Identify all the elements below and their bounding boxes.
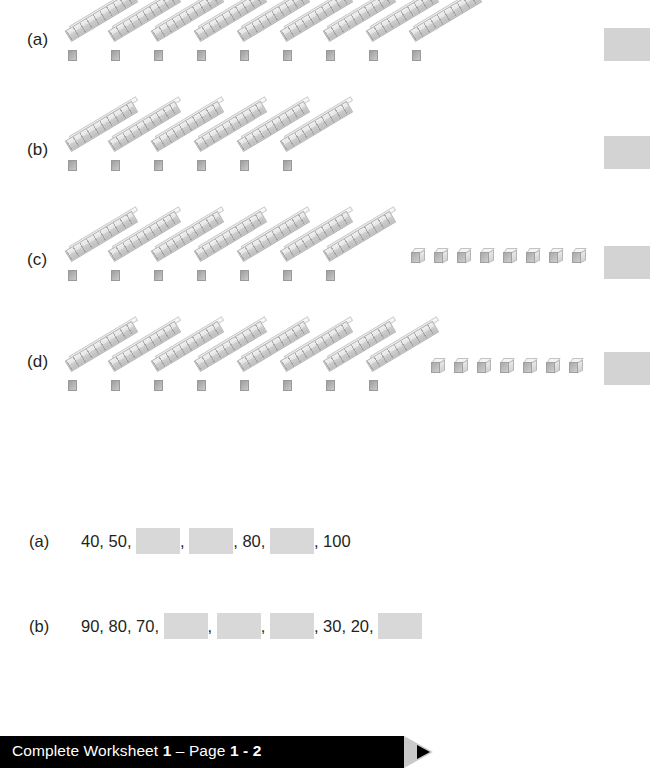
block-row: (a) (0, 0, 663, 100)
answer-box[interactable] (604, 28, 650, 61)
sequence-number: 70 (136, 617, 154, 636)
sequence-blank-box[interactable] (270, 613, 314, 639)
tens-rod-end-cap (197, 50, 206, 61)
unit-cube-front-face (477, 362, 486, 373)
unit-cube-front-face (572, 252, 581, 263)
unit-cube-front-face (569, 362, 578, 373)
unit-cube (454, 358, 469, 375)
sequence-blank-box[interactable] (217, 613, 261, 639)
tens-rod (283, 126, 355, 182)
unit-cube (457, 248, 472, 265)
unit-cube (477, 358, 492, 375)
tens-rod (326, 236, 398, 292)
unit-cube-front-face (457, 252, 466, 263)
sequence-blank-box[interactable] (189, 528, 233, 554)
sequence-blank-box[interactable] (378, 613, 422, 639)
sequence-number: 100 (323, 532, 351, 551)
number-sequence-row: (b)90, 80, 70, , , , 30, 20, (29, 613, 422, 639)
sequence-blank-box[interactable] (164, 613, 208, 639)
tens-rod-end-cap (283, 270, 292, 281)
unit-cube-front-face (500, 362, 509, 373)
unit-cube-front-face (549, 252, 558, 263)
unit-cube-front-face (480, 252, 489, 263)
tens-rod-end-cap (197, 160, 206, 171)
sequence-separator: , (99, 532, 108, 551)
sequence-number: 90 (81, 617, 99, 636)
sequence-number: 40 (81, 532, 99, 551)
unit-cube-front-face (503, 252, 512, 263)
tens-rod-end-cap (197, 270, 206, 281)
tens-rod-end-cap (283, 160, 292, 171)
tens-rod-group (0, 110, 520, 210)
unit-cube-front-face (526, 252, 535, 263)
footer-page-range: 1 - 2 (230, 742, 262, 759)
sequence-items: 90, 80, 70, , , , 30, 20, (81, 613, 422, 639)
block-row: (b) (0, 110, 663, 210)
tens-rod-end-cap (283, 50, 292, 61)
tens-rod-end-cap (240, 50, 249, 61)
block-row: (c) (0, 220, 663, 320)
sequence-items: 40, 50, , , 80, , 100 (81, 528, 351, 554)
sequence-separator: , (369, 617, 378, 636)
answer-box[interactable] (604, 352, 650, 385)
tens-rod-end-cap (326, 380, 335, 391)
sequence-number: 20 (351, 617, 369, 636)
tens-rod-end-cap (369, 380, 378, 391)
sequence-blank-box[interactable] (270, 528, 314, 554)
block-row: (d) (0, 330, 663, 430)
sequence-separator: , (127, 617, 136, 636)
worksheet-footer: Complete Worksheet 1 – Page 1 - 2 (0, 736, 663, 768)
footer-label: Complete Worksheet 1 – Page 1 - 2 (12, 742, 261, 760)
sequence-separator: , (261, 617, 270, 636)
sequence-row-label: (b) (29, 617, 81, 636)
sequence-separator: , (127, 532, 136, 551)
unit-cube (431, 358, 446, 375)
unit-cube (569, 358, 584, 375)
sequence-separator: , (314, 532, 323, 551)
tens-rod-end-cap (240, 270, 249, 281)
footer-next-arrow-icon[interactable] (417, 745, 430, 759)
unit-cube (480, 248, 495, 265)
footer-separator: – Page (171, 742, 230, 759)
unit-cube-front-face (454, 362, 463, 373)
sequence-separator: , (154, 617, 163, 636)
unit-cube (411, 248, 426, 265)
tens-rod-end-cap (154, 160, 163, 171)
tens-rod-end-cap (68, 270, 77, 281)
tens-rod-end-cap (111, 50, 120, 61)
sequence-blank-box[interactable] (136, 528, 180, 554)
tens-rod-end-cap (154, 50, 163, 61)
sequence-number: 80 (242, 532, 260, 551)
tens-rod-end-cap (369, 50, 378, 61)
sequence-separator: , (261, 532, 270, 551)
sequence-separator: , (180, 532, 189, 551)
sequence-number: 30 (323, 617, 341, 636)
answer-box[interactable] (604, 246, 650, 279)
number-sequence-row: (a)40, 50, , , 80, , 100 (29, 528, 351, 554)
tens-rod-end-cap (240, 160, 249, 171)
tens-rod-end-cap (111, 160, 120, 171)
tens-rod-end-cap (111, 270, 120, 281)
unit-cube (500, 358, 515, 375)
sequence-separator: , (341, 617, 350, 636)
tens-rod-end-cap (68, 50, 77, 61)
tens-rod-end-cap (68, 380, 77, 391)
sequence-separator: , (233, 532, 242, 551)
unit-cube (549, 248, 564, 265)
unit-cube-front-face (523, 362, 532, 373)
tens-rod-end-cap (283, 380, 292, 391)
tens-rod-group (0, 0, 520, 100)
footer-prefix: Complete Worksheet (12, 742, 163, 759)
tens-rod-group (0, 220, 520, 320)
unit-cube (434, 248, 449, 265)
tens-rod-end-cap (68, 160, 77, 171)
sequence-separator: , (314, 617, 323, 636)
tens-rod-end-cap (154, 380, 163, 391)
unit-cube (523, 358, 538, 375)
tens-rod-end-cap (326, 270, 335, 281)
unit-cube-front-face (546, 362, 555, 373)
tens-rod-end-cap (197, 380, 206, 391)
unit-cube-front-face (431, 362, 440, 373)
answer-box[interactable] (604, 136, 650, 169)
tens-rod-end-cap (412, 50, 421, 61)
